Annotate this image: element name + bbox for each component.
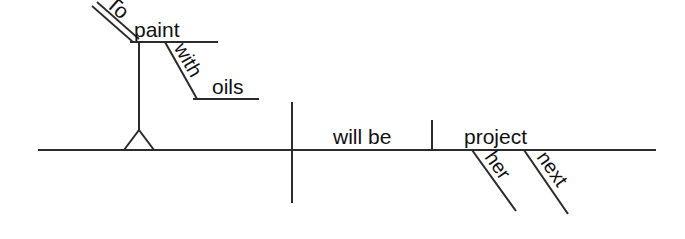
word-her: her <box>481 147 516 184</box>
word-group-next: next <box>533 147 573 191</box>
word-oils: oils <box>212 75 244 98</box>
sentence-diagram-svg: To paint with oils will be project her n… <box>0 0 685 239</box>
word-project: project <box>464 125 527 148</box>
word-paint: paint <box>134 18 180 41</box>
word-group-her: her <box>481 147 516 184</box>
word-next: next <box>533 147 573 191</box>
word-will-be: will be <box>332 125 391 148</box>
pedestal-triangle-right <box>139 130 154 150</box>
sentence-diagram-canvas: To paint with oils will be project her n… <box>0 0 685 239</box>
pedestal-triangle-left <box>124 130 139 150</box>
